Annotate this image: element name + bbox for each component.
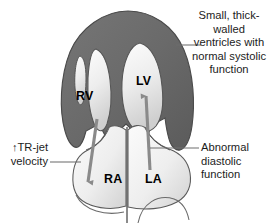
chamber-label-rv: RV [76, 89, 93, 103]
chamber-label-la: LA [145, 172, 162, 186]
annotation-normal-systolic-function: Small, thick-walled ventricles with norm… [183, 9, 275, 77]
annotation-tr-jet-velocity: ↑TR-jet velocity [2, 141, 48, 168]
annotation-abnormal-diastolic-function: Abnormal diastolic function [201, 141, 275, 182]
chamber-label-lv: LV [136, 74, 151, 88]
chamber-label-ra: RA [104, 172, 122, 186]
heart-diagram-figure: RV LV RA LA Small, thick-walled ventricl… [0, 0, 277, 223]
